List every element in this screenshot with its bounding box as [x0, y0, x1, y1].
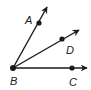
point-d	[59, 36, 64, 41]
label-c: C	[69, 76, 77, 88]
point-b-vertex	[10, 65, 16, 71]
point-c	[69, 65, 74, 70]
label-a: A	[24, 14, 32, 26]
label-b: B	[10, 75, 17, 87]
ray-diagram: ADCB	[0, 0, 91, 90]
point-a	[36, 20, 41, 25]
label-d: D	[66, 44, 74, 56]
